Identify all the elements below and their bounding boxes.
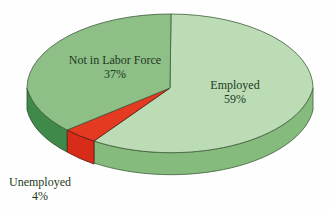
unemployed-pct: 4% xyxy=(8,189,72,203)
employed-label: Employed 59% xyxy=(195,78,275,106)
unemployed-label: Unemployed 4% xyxy=(8,175,72,203)
employed-pct: 59% xyxy=(195,92,275,106)
not-in-lf-pct: 37% xyxy=(55,67,175,81)
employed-name: Employed xyxy=(195,78,275,92)
unemployed-name: Unemployed xyxy=(8,175,72,189)
not-in-lf-name: Not in Labor Force xyxy=(55,53,175,67)
not-in-lf-label: Not in Labor Force 37% xyxy=(55,53,175,81)
pie-chart: Not in Labor Force 37% Employed 59% Unem… xyxy=(0,0,330,210)
